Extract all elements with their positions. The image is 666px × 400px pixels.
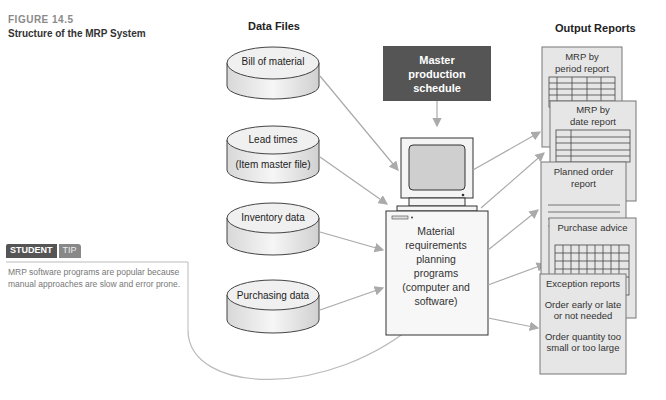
- report-mrp-by-period-label: MRP by period report: [542, 51, 622, 75]
- report-purchase-advice-label: Purchase advice: [549, 222, 636, 234]
- report-planned-order-label: Planned order report: [541, 166, 626, 190]
- report-mrp-by-date-label: MRP by date report: [550, 104, 636, 128]
- data-file-bill-of-material: Bill of material: [213, 56, 333, 67]
- mrp-programs-label: Material requirements planning programs …: [388, 224, 484, 308]
- cylinder-inventory-data: [227, 203, 319, 255]
- cylinder-purchasing-data: [227, 280, 319, 333]
- data-file-inventory: Inventory data: [213, 212, 333, 223]
- mps-line-1: Master: [383, 53, 491, 67]
- data-file-lead-times: Lead times: [213, 134, 333, 145]
- data-file-lead-times-sublabel: (Item master file): [213, 159, 333, 170]
- mps-line-2: production schedule: [383, 67, 491, 95]
- student-tip-badge: STUDENT TIP: [6, 244, 81, 258]
- master-production-schedule-box: Master production schedule: [383, 46, 491, 101]
- tip-tag: TIP: [59, 244, 81, 258]
- student-tag: STUDENT: [6, 244, 57, 258]
- report-exception-label: Exception reports Order early or late or…: [540, 278, 626, 353]
- cylinder-bill-of-material: [227, 47, 319, 99]
- student-tip-text: MRP software programs are popular becaus…: [8, 266, 188, 290]
- data-file-purchasing: Purchasing data: [213, 290, 333, 301]
